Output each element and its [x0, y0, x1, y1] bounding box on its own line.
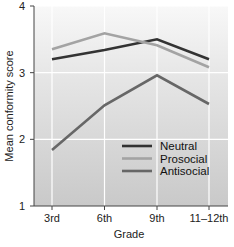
y-tick-label: 1: [19, 200, 25, 212]
legend-label: Antisocial: [160, 165, 209, 177]
y-tick-label: 3: [19, 67, 25, 79]
line-chart: 1234 3rd6th9th11–12th NeutralProsocialAn…: [0, 0, 234, 247]
x-tick-label: 9th: [149, 212, 164, 224]
y-tick-label: 2: [19, 133, 25, 145]
x-axis-ticks: 3rd6th9th11–12th: [44, 206, 228, 224]
y-axis-ticks: 1234: [19, 0, 34, 212]
legend: NeutralProsocialAntisocial: [122, 140, 209, 177]
x-axis-title: Grade: [114, 228, 145, 240]
legend-label: Prosocial: [160, 153, 207, 165]
x-tick-label: 6th: [97, 212, 112, 224]
y-axis-title: Mean conformity score: [3, 50, 15, 161]
x-tick-label: 11–12th: [190, 212, 229, 224]
x-tick-label: 3rd: [44, 212, 60, 224]
y-tick-label: 4: [19, 0, 25, 12]
legend-label: Neutral: [160, 140, 197, 152]
